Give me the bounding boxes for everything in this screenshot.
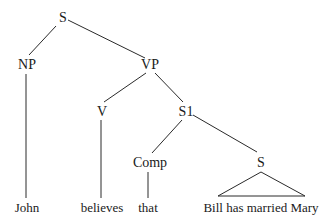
node-vp: VP [141,57,159,72]
edge-s1-to-comp [152,120,182,153]
node-s-root: S [59,10,67,25]
edge-vp-to-s1 [155,73,183,102]
tree-nodes: S NP VP V S1 Comp S [18,10,265,170]
edge-s1-to-s-lower [193,115,257,152]
tree-leaves: John believes that Bill has married Mary [15,200,319,215]
leaf-john: John [15,200,40,215]
syntax-tree-diagram: S NP VP V S1 Comp S John believes that B… [0,0,332,221]
node-comp: Comp [133,155,167,170]
node-s-lower: S [257,155,265,170]
node-v: V [97,104,107,119]
edge-s-root-to-vp [68,20,145,58]
tree-edges [26,20,257,198]
edge-s-root-to-np [29,26,56,55]
node-s1: S1 [179,104,194,119]
s-constituent-triangle [218,172,305,196]
edge-vp-to-v [104,73,146,102]
leaf-bill-has-married-mary: Bill has married Mary [203,200,319,215]
node-np: NP [18,57,36,72]
leaf-that: that [138,200,158,215]
leaf-believes: believes [81,200,124,215]
